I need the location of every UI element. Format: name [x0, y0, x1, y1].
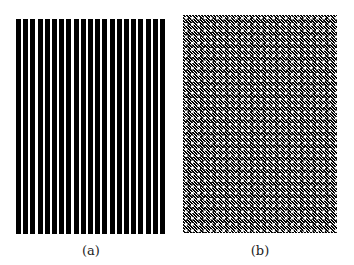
panel-b-caption: (b) [240, 243, 280, 259]
panel-a-caption: (a) [71, 243, 111, 259]
checkerboard-texture-pattern-image [183, 15, 337, 233]
vertical-stripe-pattern-image [16, 19, 167, 234]
